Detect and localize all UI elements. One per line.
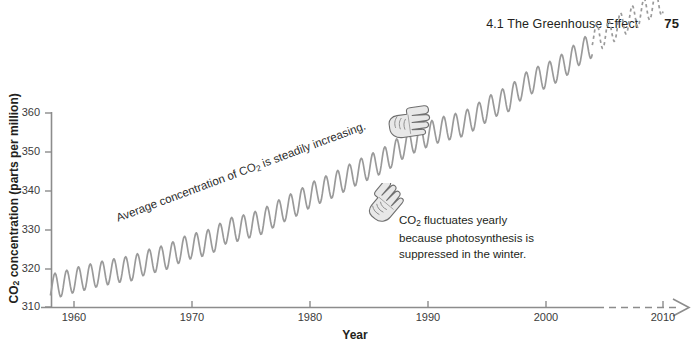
textbook-page: 4.1 The Greenhouse Effect 75 <box>0 0 697 352</box>
x-axis-title: Year <box>320 328 390 342</box>
co2-concentration-figure: 360 350 340 330 320 310 1960 1970 1980 1… <box>0 0 697 352</box>
annotation-fluctuation-line2: because photosynthesis is <box>399 232 534 244</box>
x-tick-2010: 2010 <box>641 311 685 323</box>
x-tick-1960: 1960 <box>52 311 96 323</box>
annotation-fluctuation: CO2 fluctuates yearly because photosynth… <box>399 213 549 262</box>
pointing-hand-icon <box>386 105 432 143</box>
x-tick-2000: 2000 <box>524 311 568 323</box>
plot-canvas <box>0 0 697 352</box>
x-tick-1980: 1980 <box>288 311 332 323</box>
y-axis-title: CO2 concentration (parts per million) <box>7 103 22 303</box>
co2-curve-projected <box>592 0 663 48</box>
annotation-fluctuation-line1: CO2 fluctuates yearly <box>399 214 507 226</box>
pointing-hand-icon <box>366 183 408 229</box>
x-tick-1970: 1970 <box>170 311 214 323</box>
x-tick-1990: 1990 <box>406 311 450 323</box>
annotation-fluctuation-line3: suppressed in the winter. <box>399 248 526 260</box>
